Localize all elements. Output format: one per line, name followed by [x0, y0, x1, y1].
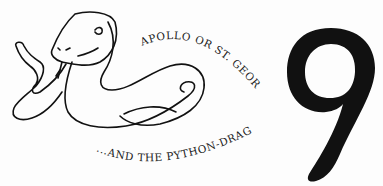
chapter-illustration: APOLLO OR ST. GEORGE ...AND THE PYTHON-D… — [0, 0, 383, 186]
caption-bottom: ...AND THE PYTHON-DRAGON — [0, 0, 254, 163]
caption-top: APOLLO OR ST. GEORGE — [0, 0, 264, 91]
snake-drawing: APOLLO OR ST. GEORGE ...AND THE PYTHON-D… — [0, 0, 383, 186]
chapter-number-nine — [287, 28, 375, 182]
